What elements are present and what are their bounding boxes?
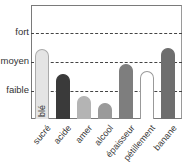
gridline-moyen xyxy=(31,62,182,63)
y-tick-label-fort: fort xyxy=(15,26,29,37)
y-tick-label-faible: faible xyxy=(6,84,29,95)
bar-3 xyxy=(98,103,112,119)
bar-1 xyxy=(56,74,70,119)
x-tick-label: sucré xyxy=(31,123,53,146)
gridline-faible xyxy=(31,91,182,92)
bar-annotation: blé xyxy=(37,105,47,117)
gridline-fort xyxy=(31,33,182,34)
x-tick-label: amer xyxy=(74,123,95,145)
x-tick-label: acide xyxy=(52,123,73,146)
bar-4 xyxy=(119,64,133,119)
y-tick-label-moyen: moyen xyxy=(0,55,29,66)
bar-6 xyxy=(161,48,175,119)
bar-2 xyxy=(77,96,91,119)
bar-0: blé xyxy=(35,49,49,119)
bar-5 xyxy=(140,71,154,119)
